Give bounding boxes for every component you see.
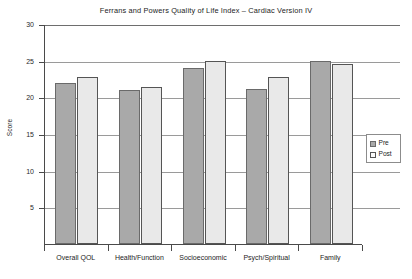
legend-swatch-post-icon (370, 152, 376, 158)
x-axis-tick-mark (298, 245, 299, 251)
chart-legend: Pre Post (366, 134, 401, 163)
legend-swatch-pre-icon (370, 141, 376, 147)
legend-label-post: Post (379, 151, 392, 158)
y-axis-tick-label: 5 (8, 204, 34, 211)
bar (246, 89, 267, 244)
legend-item-post[interactable]: Post (370, 149, 400, 160)
y-axis-tick-label: 30 (8, 21, 34, 28)
x-axis-tick-mark (44, 245, 45, 251)
y-axis-tick-label: 10 (8, 168, 34, 175)
x-axis-tick-mark (171, 245, 172, 251)
x-axis-category-label: Family (298, 254, 362, 261)
bar (268, 77, 289, 244)
x-axis-category-label: Socioeconomic (171, 254, 235, 261)
plot-area (44, 25, 362, 245)
x-axis-tick-mark (362, 245, 363, 251)
chart-container: Ferrans and Powers Quality of Life Index… (0, 0, 412, 279)
bar (141, 87, 162, 244)
x-axis-category-label: Psych/Spiritual (235, 254, 299, 261)
bar (55, 83, 76, 244)
bar (183, 68, 204, 244)
bar (77, 77, 98, 244)
y-axis-tick-label: 25 (8, 58, 34, 65)
bar (332, 64, 353, 244)
x-axis-tick-mark (108, 245, 109, 251)
x-axis-category-label: Health/Function (108, 254, 172, 261)
x-axis-tick-mark (235, 245, 236, 251)
bar (119, 90, 140, 244)
y-axis-tick-label: 20 (8, 94, 34, 101)
legend-label-pre: Pre (379, 140, 389, 147)
bar (205, 61, 226, 244)
legend-item-pre[interactable]: Pre (370, 138, 400, 149)
x-axis-category-label: Overall QOL (44, 254, 108, 261)
bar (310, 61, 331, 244)
y-axis-label: Score (6, 108, 13, 148)
chart-title: Ferrans and Powers Quality of Life Index… (0, 6, 412, 15)
